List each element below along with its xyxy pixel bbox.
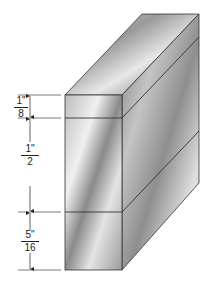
dimension-bottom-denominator: 16 xyxy=(18,243,42,253)
dimension-label-top: 1" 8 xyxy=(9,96,33,119)
dimension-bottom-numerator: 5" xyxy=(18,230,42,240)
dimension-top-numerator: 1" xyxy=(9,96,33,106)
block-front-face xyxy=(65,95,122,270)
dimension-label-bottom: 5" 16 xyxy=(18,230,42,253)
dimension-label-middle: 1" 2 xyxy=(18,144,42,167)
dimension-top-denominator: 8 xyxy=(9,109,33,119)
dimension-middle-numerator: 1" xyxy=(18,144,42,154)
dimension-middle-denominator: 2 xyxy=(18,157,42,167)
